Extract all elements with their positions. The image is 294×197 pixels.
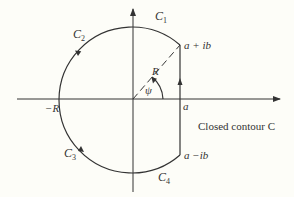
arrow-up-icon (178, 78, 183, 85)
label-lower-point: a −ib (184, 149, 209, 161)
label-radius: R (151, 65, 159, 77)
arrow-c3-icon (78, 146, 84, 152)
label-upper-point: a + ib (184, 39, 211, 51)
label-c2: C2 (73, 27, 85, 43)
label-neg-r: −R (45, 102, 59, 114)
label-c4: C4 (158, 170, 170, 186)
label-angle: ψ (145, 84, 152, 96)
contour-arc (59, 27, 180, 173)
label-c3: C3 (64, 146, 76, 162)
caption: Closed contour C (198, 120, 275, 132)
label-a: a (183, 100, 189, 112)
label-c1: C1 (155, 9, 167, 25)
contour-diagram: C1 C2 C3 C4 a + ib a −ib −R R ψ a Closed… (0, 0, 294, 197)
